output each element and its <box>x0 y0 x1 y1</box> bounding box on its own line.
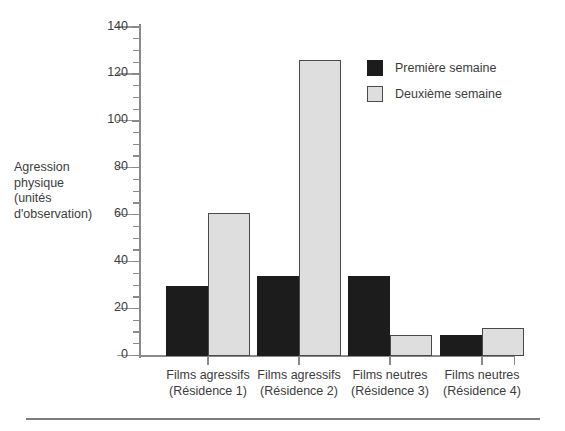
x-axis-tick <box>207 356 208 365</box>
x-axis-tick <box>298 356 299 365</box>
bar <box>166 286 208 356</box>
chart-legend: Première semaine Deuxième semaine <box>367 55 502 107</box>
legend-item-deuxieme-semaine: Deuxième semaine <box>367 81 502 107</box>
bar <box>390 335 432 356</box>
bottom-divider-rule <box>26 418 540 420</box>
bar <box>208 213 250 356</box>
bar-chart-figure: Agression physique (unités d'observation… <box>0 0 565 431</box>
bar <box>482 328 524 356</box>
bar <box>348 276 390 356</box>
legend-item-premiere-semaine: Première semaine <box>367 55 502 81</box>
x-axis-tick <box>389 356 390 365</box>
bar <box>440 335 482 356</box>
dark-square-swatch-icon <box>367 60 383 76</box>
x-axis-end-tick <box>514 356 515 365</box>
x-axis-category-label: Films neutres (Résidence 4) <box>424 368 540 399</box>
bar <box>257 276 299 356</box>
legend-label: Deuxième semaine <box>395 87 502 101</box>
legend-label: Première semaine <box>395 61 496 75</box>
x-axis-tick <box>481 356 482 365</box>
bar-series-group <box>0 0 565 356</box>
light-square-swatch-icon <box>367 86 383 102</box>
bar <box>299 60 341 356</box>
